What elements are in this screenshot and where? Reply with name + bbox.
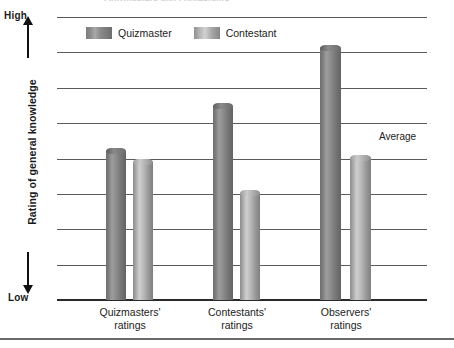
bar-quizmaster-contestants-ratings — [213, 103, 233, 300]
category-label-line1: Observers' — [291, 306, 401, 319]
bar-cap — [213, 103, 233, 109]
bar-cap — [320, 45, 341, 51]
bar-body — [133, 162, 153, 300]
bar-body — [240, 193, 260, 300]
category-label-quizmasters: Quizmasters' ratings — [75, 306, 185, 332]
average-annotation-label: Average — [379, 131, 416, 142]
legend-swatch-icon-contestant — [194, 27, 220, 39]
legend-swatch-icon-quizmaster — [86, 27, 112, 39]
category-label-line2: ratings — [75, 319, 185, 332]
bar-cap — [133, 159, 153, 165]
y-axis-title: Rating of general knowledge — [26, 62, 38, 242]
bar-contestant-contestants-ratings — [240, 190, 260, 300]
gridline-8 — [57, 17, 427, 18]
bottom-divider — [0, 338, 454, 340]
bar-contestant-quizmasters-ratings — [133, 159, 153, 300]
bar-quizmaster-observers-ratings — [320, 45, 341, 300]
legend-item-contestant: Contestant — [194, 27, 277, 39]
category-label-line2: ratings — [182, 319, 292, 332]
category-label-line1: Contestants' — [182, 306, 292, 319]
figure-bar-chart: Quizmasters and contestants High Rating … — [0, 0, 454, 348]
gridline-5 — [57, 123, 427, 124]
bar-body — [213, 106, 233, 300]
arrow-down-icon — [27, 252, 29, 286]
bar-cap — [106, 148, 126, 154]
bar-body — [320, 48, 341, 300]
bar-cap — [350, 155, 371, 161]
legend: Quizmaster Contestant — [86, 27, 276, 39]
bar-cap — [240, 190, 260, 196]
bar-body — [350, 158, 371, 300]
gridline-6 — [57, 88, 427, 89]
gridline-7 — [57, 52, 427, 53]
caption-remnant: Quizmasters and contestants — [104, 0, 284, 1]
arrow-up-icon — [27, 24, 29, 58]
category-label-contestants: Contestants' ratings — [182, 306, 292, 332]
category-label-line1: Quizmasters' — [75, 306, 185, 319]
bar-body — [106, 151, 126, 300]
y-axis-low-label: Low — [8, 292, 29, 303]
bar-contestant-observers-ratings — [350, 155, 371, 300]
legend-label-contestant: Contestant — [226, 27, 277, 39]
category-label-line2: ratings — [291, 319, 401, 332]
legend-label-quizmaster: Quizmaster — [118, 27, 172, 39]
legend-item-quizmaster: Quizmaster — [86, 27, 172, 39]
category-label-observers: Observers' ratings — [291, 306, 401, 332]
bar-quizmaster-quizmasters-ratings — [106, 148, 126, 300]
